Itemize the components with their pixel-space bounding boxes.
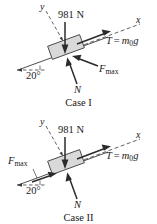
friction-leader-line bbox=[33, 169, 37, 178]
friction-force-arrow bbox=[72, 55, 98, 66]
case-2-figure: y x 981 N T=m0g Fmax N 20° Case II bbox=[0, 112, 157, 224]
friction-subscript: max bbox=[14, 159, 27, 168]
weight-label: 981 N bbox=[58, 125, 84, 136]
normal-label: N bbox=[74, 85, 81, 96]
friction-subscript: max bbox=[105, 67, 118, 76]
tension-label: T=m0g bbox=[106, 36, 138, 47]
tension-symbol: T bbox=[106, 35, 112, 46]
x-axis-label: x bbox=[136, 15, 140, 25]
y-axis-label: y bbox=[40, 2, 44, 12]
y-axis-label: y bbox=[40, 117, 44, 127]
tension-gravity: g bbox=[133, 150, 138, 161]
case-2-caption: Case II bbox=[0, 212, 157, 223]
angle-label: 20° bbox=[26, 186, 41, 197]
friction-label: Fmax bbox=[8, 156, 27, 167]
friction-force-arrow bbox=[32, 172, 57, 182]
normal-force-arrow bbox=[66, 172, 77, 199]
tension-symbol: T bbox=[106, 150, 112, 161]
tension-gravity: g bbox=[133, 35, 138, 46]
x-axis-label: x bbox=[136, 130, 140, 140]
tension-equals: = bbox=[114, 35, 120, 46]
tension-label: T=m0g bbox=[106, 151, 138, 162]
case-1-figure: y x 981 N T=m0g Fmax N 20° Case I bbox=[0, 0, 157, 112]
angle-reference-arrowhead bbox=[17, 183, 22, 186]
friction-label: Fmax bbox=[99, 64, 118, 75]
angle-label: 20° bbox=[26, 71, 41, 82]
case-1-caption: Case I bbox=[0, 97, 157, 108]
normal-label: N bbox=[74, 200, 81, 211]
angle-reference-arrowhead bbox=[17, 68, 22, 71]
weight-label: 981 N bbox=[58, 10, 84, 21]
tension-equals: = bbox=[114, 150, 120, 161]
normal-force-arrow bbox=[66, 57, 77, 84]
